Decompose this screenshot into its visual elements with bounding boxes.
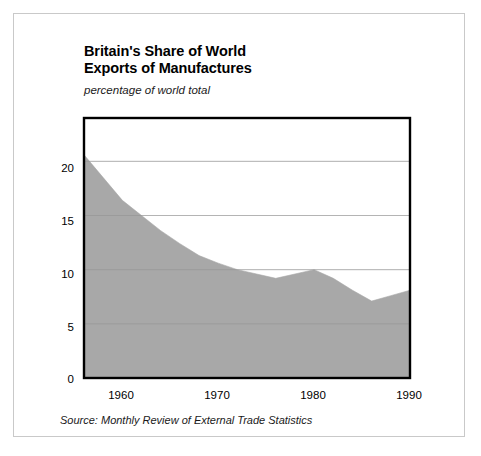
- x-tick-label-1960: 1960: [99, 389, 143, 401]
- y-tick-label-5: 5: [48, 321, 74, 333]
- figure-root: Britain's Share of World Exports of Manu…: [0, 0, 481, 456]
- y-tick-label-0: 0: [48, 373, 74, 385]
- x-tick-label-1990: 1990: [387, 389, 431, 401]
- source-note: Source: Monthly Review of External Trade…: [60, 414, 312, 426]
- y-tick-label-15: 15: [48, 215, 74, 227]
- y-tick-label-10: 10: [48, 268, 74, 280]
- plot-area: 20 15 10 5 0 1960 1970 1980 1990: [0, 0, 481, 456]
- x-tick-label-1970: 1970: [195, 389, 239, 401]
- area-chart-svg: [0, 0, 481, 456]
- x-tick-label-1980: 1980: [291, 389, 335, 401]
- y-tick-label-20: 20: [48, 162, 74, 174]
